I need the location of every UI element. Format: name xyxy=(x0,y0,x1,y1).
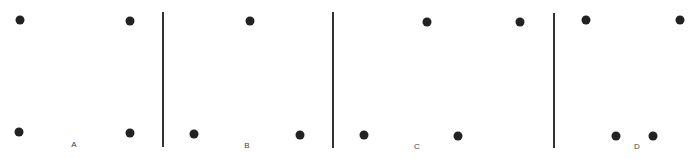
dot xyxy=(246,17,255,26)
dot xyxy=(423,18,432,27)
panel-label: A xyxy=(71,140,76,149)
dot xyxy=(16,16,25,25)
dot xyxy=(582,16,591,25)
dot-pattern-figure: ABCD xyxy=(0,0,688,158)
dot xyxy=(126,17,135,26)
panel-label: B xyxy=(244,141,249,150)
dot xyxy=(126,129,135,138)
dot xyxy=(612,132,621,141)
dot xyxy=(516,18,525,27)
panel-divider xyxy=(553,13,555,148)
dot xyxy=(649,132,658,141)
dot xyxy=(454,132,463,141)
dot xyxy=(676,16,685,25)
panel-label: D xyxy=(634,142,640,151)
dot xyxy=(296,131,305,140)
panel-divider xyxy=(162,12,164,147)
panel-divider xyxy=(332,12,334,148)
panel-label: C xyxy=(414,142,420,151)
dot xyxy=(360,131,369,140)
dot xyxy=(15,128,24,137)
dot xyxy=(190,130,199,139)
